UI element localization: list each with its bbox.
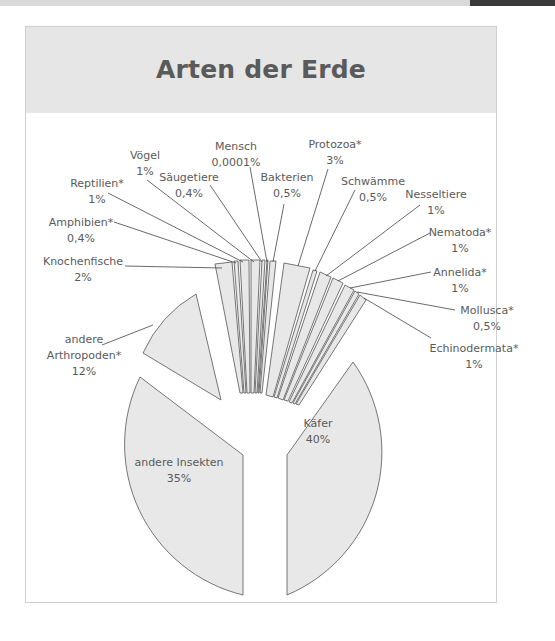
label-insekten-value: 35% [167,472,191,485]
label-insekten-name: andere Insekten [134,456,223,469]
label-bakterien-value: 0,5% [273,187,301,200]
label-schwaemme-name: Schwämme [341,175,405,188]
label-echinodermata-name: Echinodermata* [430,342,519,355]
label-nesseltiere-name: Nesseltiere [405,188,467,201]
label-reptilien-value: 1% [88,193,105,206]
label-protozoa-value: 3% [326,154,343,167]
label-mensch-value: 0,0001% [212,156,261,169]
label-voegel-name: Vögel [130,149,160,162]
label-saeugetiere-value: 0,4% [175,187,203,200]
pie-chart: Käfer 40% andere Insekten 35% andere Art… [0,0,555,641]
label-saeugetiere-name: Säugetiere [159,171,219,184]
label-amphibien-name: Amphibien* [49,216,114,229]
label-bakterien-name: Bakterien [260,171,313,184]
label-kaefer-name: Käfer [304,417,333,430]
label-arthropoden-value: 12% [72,365,96,378]
label-arthropoden-name: andere [65,333,104,346]
label-knochenfische-name: Knochenfische [43,255,123,268]
label-nematoda-value: 1% [451,242,468,255]
label-reptilien-name: Reptilien* [70,177,124,190]
label-amphibien-value: 0,4% [67,232,95,245]
label-knochenfische-value: 2% [74,271,91,284]
label-protozoa-name: Protozoa* [308,138,362,151]
label-annelida-value: 1% [451,282,468,295]
label-mollusca-value: 0,5% [473,320,501,333]
label-voegel-value: 1% [136,165,153,178]
label-arthropoden-name2: Arthropoden* [47,349,122,362]
label-echinodermata-value: 1% [465,358,482,371]
label-nematoda-name: Nematoda* [429,226,492,239]
label-schwaemme-value: 0,5% [359,191,387,204]
slice-andere-arthropoden [143,294,221,400]
label-mensch-name: Mensch [215,140,257,153]
label-nesseltiere-value: 1% [427,204,444,217]
slice-andere-insekten [125,377,243,595]
label-annelida-name: Annelida* [433,266,487,279]
label-kaefer-value: 40% [306,433,330,446]
label-mollusca-name: Mollusca* [460,304,514,317]
